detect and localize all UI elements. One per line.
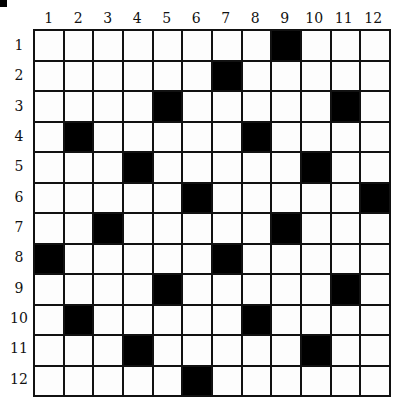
white-cell[interactable] (65, 367, 93, 396)
white-cell[interactable] (183, 123, 211, 152)
white-cell[interactable] (65, 92, 93, 121)
white-cell[interactable] (332, 62, 360, 91)
white-cell[interactable] (302, 214, 330, 243)
white-cell[interactable] (213, 275, 241, 304)
white-cell[interactable] (35, 275, 63, 304)
white-cell[interactable] (35, 367, 63, 396)
white-cell[interactable] (183, 336, 211, 365)
white-cell[interactable] (302, 367, 330, 396)
white-cell[interactable] (332, 367, 360, 396)
white-cell[interactable] (35, 153, 63, 182)
white-cell[interactable] (302, 31, 330, 60)
white-cell[interactable] (183, 92, 211, 121)
white-cell[interactable] (65, 275, 93, 304)
white-cell[interactable] (124, 367, 152, 396)
white-cell[interactable] (213, 184, 241, 213)
white-cell[interactable] (65, 184, 93, 213)
white-cell[interactable] (213, 214, 241, 243)
white-cell[interactable] (154, 184, 182, 213)
white-cell[interactable] (332, 153, 360, 182)
white-cell[interactable] (332, 184, 360, 213)
white-cell[interactable] (94, 306, 122, 335)
white-cell[interactable] (183, 214, 211, 243)
white-cell[interactable] (35, 123, 63, 152)
white-cell[interactable] (272, 245, 300, 274)
white-cell[interactable] (213, 123, 241, 152)
white-cell[interactable] (154, 31, 182, 60)
white-cell[interactable] (361, 275, 389, 304)
white-cell[interactable] (361, 31, 389, 60)
white-cell[interactable] (154, 123, 182, 152)
white-cell[interactable] (154, 245, 182, 274)
white-cell[interactable] (272, 275, 300, 304)
white-cell[interactable] (65, 245, 93, 274)
white-cell[interactable] (124, 92, 152, 121)
white-cell[interactable] (272, 123, 300, 152)
white-cell[interactable] (65, 336, 93, 365)
white-cell[interactable] (35, 62, 63, 91)
white-cell[interactable] (302, 245, 330, 274)
white-cell[interactable] (213, 92, 241, 121)
white-cell[interactable] (124, 123, 152, 152)
white-cell[interactable] (272, 153, 300, 182)
white-cell[interactable] (65, 214, 93, 243)
white-cell[interactable] (361, 306, 389, 335)
white-cell[interactable] (243, 245, 271, 274)
white-cell[interactable] (332, 336, 360, 365)
white-cell[interactable] (183, 275, 211, 304)
white-cell[interactable] (65, 31, 93, 60)
white-cell[interactable] (94, 92, 122, 121)
white-cell[interactable] (94, 275, 122, 304)
white-cell[interactable] (243, 336, 271, 365)
white-cell[interactable] (94, 367, 122, 396)
white-cell[interactable] (183, 62, 211, 91)
white-cell[interactable] (213, 336, 241, 365)
white-cell[interactable] (183, 245, 211, 274)
white-cell[interactable] (361, 214, 389, 243)
white-cell[interactable] (94, 336, 122, 365)
white-cell[interactable] (124, 31, 152, 60)
white-cell[interactable] (361, 92, 389, 121)
white-cell[interactable] (332, 245, 360, 274)
white-cell[interactable] (332, 31, 360, 60)
white-cell[interactable] (243, 92, 271, 121)
white-cell[interactable] (332, 123, 360, 152)
white-cell[interactable] (272, 336, 300, 365)
white-cell[interactable] (124, 275, 152, 304)
white-cell[interactable] (154, 367, 182, 396)
white-cell[interactable] (124, 184, 152, 213)
white-cell[interactable] (183, 31, 211, 60)
white-cell[interactable] (243, 214, 271, 243)
white-cell[interactable] (213, 306, 241, 335)
white-cell[interactable] (94, 184, 122, 213)
white-cell[interactable] (302, 275, 330, 304)
white-cell[interactable] (94, 62, 122, 91)
white-cell[interactable] (154, 306, 182, 335)
white-cell[interactable] (124, 306, 152, 335)
white-cell[interactable] (35, 184, 63, 213)
white-cell[interactable] (272, 92, 300, 121)
white-cell[interactable] (243, 367, 271, 396)
white-cell[interactable] (94, 245, 122, 274)
white-cell[interactable] (213, 367, 241, 396)
white-cell[interactable] (35, 306, 63, 335)
white-cell[interactable] (94, 153, 122, 182)
white-cell[interactable] (94, 31, 122, 60)
white-cell[interactable] (213, 153, 241, 182)
white-cell[interactable] (154, 336, 182, 365)
white-cell[interactable] (272, 367, 300, 396)
white-cell[interactable] (154, 214, 182, 243)
white-cell[interactable] (243, 184, 271, 213)
white-cell[interactable] (243, 31, 271, 60)
white-cell[interactable] (124, 62, 152, 91)
white-cell[interactable] (35, 336, 63, 365)
white-cell[interactable] (302, 62, 330, 91)
white-cell[interactable] (272, 62, 300, 91)
white-cell[interactable] (183, 153, 211, 182)
white-cell[interactable] (361, 153, 389, 182)
white-cell[interactable] (243, 153, 271, 182)
white-cell[interactable] (361, 336, 389, 365)
white-cell[interactable] (361, 62, 389, 91)
white-cell[interactable] (272, 306, 300, 335)
white-cell[interactable] (154, 153, 182, 182)
